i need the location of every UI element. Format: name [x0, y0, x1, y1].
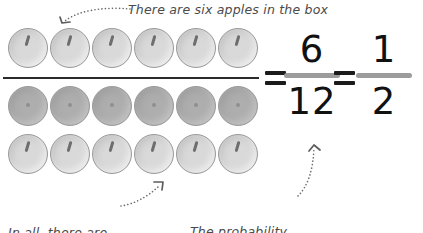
orange-item — [134, 86, 174, 126]
apple-item — [176, 28, 216, 68]
fraction-bar — [284, 73, 340, 78]
fruit-row-oranges — [0, 86, 262, 130]
fraction-bar — [356, 73, 412, 78]
annotation-total-line1: In all, there are — [8, 225, 131, 233]
arrow-to-apples-icon — [52, 6, 132, 32]
orange-navel-icon — [68, 103, 72, 107]
apple-stem-icon — [109, 35, 114, 46]
apple-stem-icon — [25, 35, 30, 46]
apple-item — [92, 28, 132, 68]
arrow-to-denominator-icon — [296, 142, 338, 198]
annotation-probability-line1: The probability — [190, 224, 313, 233]
apple-stem-icon — [193, 35, 198, 46]
apple-item — [134, 134, 174, 174]
orange-item — [176, 86, 216, 126]
orange-item — [50, 86, 90, 126]
apple-item — [218, 134, 258, 174]
apple-item — [50, 28, 90, 68]
apple-stem-icon — [25, 141, 30, 152]
apple-stem-icon — [151, 141, 156, 152]
fraction-numerator: 6 — [280, 30, 344, 70]
apple-item — [8, 134, 48, 174]
apple-item — [50, 134, 90, 174]
fruit-row-apples-bottom — [0, 134, 262, 178]
apple-stem-icon — [67, 35, 72, 46]
fraction-numerator: 1 — [352, 30, 416, 70]
annotation-probability-note: The probability of picking an apple — [190, 194, 313, 233]
orange-navel-icon — [236, 103, 240, 107]
apple-item — [134, 28, 174, 68]
orange-item — [8, 86, 48, 126]
fraction-one-half: 1 2 — [352, 30, 416, 122]
apple-stem-icon — [193, 141, 198, 152]
apple-stem-icon — [235, 35, 240, 46]
annotation-apples-note: There are six apples in the box — [128, 2, 328, 17]
probability-diagram: There are six apples in the box 6 12 1 2… — [0, 0, 423, 233]
orange-navel-icon — [152, 103, 156, 107]
orange-navel-icon — [194, 103, 198, 107]
apple-item — [92, 134, 132, 174]
fruit-fraction-bar — [3, 77, 259, 79]
apple-item — [8, 28, 48, 68]
fruit-row-apples-top — [0, 28, 262, 72]
arrow-to-total-icon — [120, 180, 176, 208]
apple-stem-icon — [235, 141, 240, 152]
orange-navel-icon — [110, 103, 114, 107]
apple-item — [176, 134, 216, 174]
orange-item — [92, 86, 132, 126]
apple-stem-icon — [109, 141, 114, 152]
apple-stem-icon — [67, 141, 72, 152]
fraction-denominator: 2 — [352, 82, 416, 122]
annotation-total-note: In all, there are 12 fruits in the box — [8, 195, 131, 233]
apple-item — [218, 28, 258, 68]
orange-navel-icon — [26, 103, 30, 107]
apple-stem-icon — [151, 35, 156, 46]
fraction-denominator: 12 — [280, 82, 344, 122]
orange-item — [218, 86, 258, 126]
